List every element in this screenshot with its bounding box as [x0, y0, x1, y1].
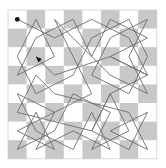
- board-squares: [8, 10, 157, 159]
- board-square: [8, 29, 27, 48]
- chessboard: [0, 0, 166, 168]
- knights-tour-diagram: [0, 0, 166, 168]
- board-square: [120, 66, 139, 85]
- start-dot-icon: [15, 17, 20, 22]
